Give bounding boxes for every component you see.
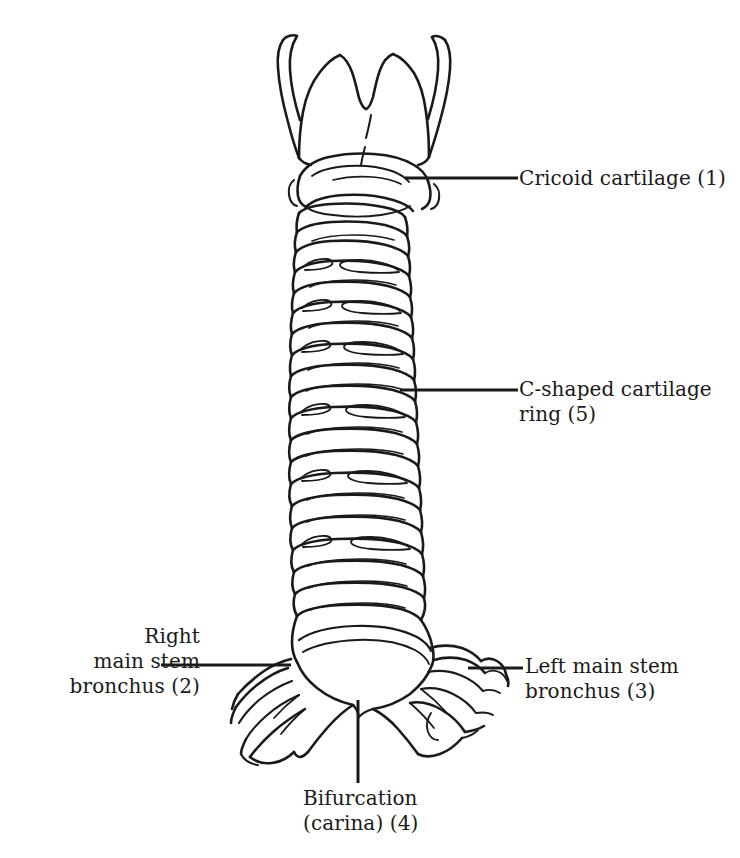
label-cshaped-line2: ring (5) — [519, 402, 712, 427]
label-right-bronchus-line1: Right — [70, 624, 200, 649]
label-right-main-stem-bronchus: Right main stem bronchus (2) — [70, 624, 200, 699]
label-cricoid-line1: Cricoid cartilage (1) — [519, 166, 726, 191]
thyroid-cartilage — [278, 35, 451, 165]
label-left-bronchus-line2: bronchus (3) — [525, 679, 679, 704]
label-bifurcation-carina: Bifurcation (carina) (4) — [303, 786, 418, 836]
label-left-bronchus-line1: Left main stem — [525, 654, 679, 679]
label-bifurcation-line1: Bifurcation — [303, 786, 418, 811]
label-cshaped-line1: C-shaped cartilage — [519, 377, 712, 402]
right-main-stem-bronchus — [231, 659, 353, 765]
tracheal-cartilage-rings — [289, 204, 425, 620]
carina-and-bifurcation — [231, 616, 508, 765]
left-main-stem-bronchus — [373, 646, 508, 757]
label-right-bronchus-line3: bronchus (2) — [70, 674, 200, 699]
label-cricoid-cartilage: Cricoid cartilage (1) — [519, 166, 726, 191]
label-left-main-stem-bronchus: Left main stem bronchus (3) — [525, 654, 679, 704]
label-bifurcation-line2: (carina) (4) — [303, 811, 418, 836]
label-c-shaped-cartilage-ring: C-shaped cartilage ring (5) — [519, 377, 712, 427]
trachea-diagram-svg — [0, 0, 740, 858]
label-right-bronchus-line2: main stem — [70, 649, 200, 674]
anatomical-figure: Cricoid cartilage (1) C-shaped cartilage… — [0, 0, 740, 858]
